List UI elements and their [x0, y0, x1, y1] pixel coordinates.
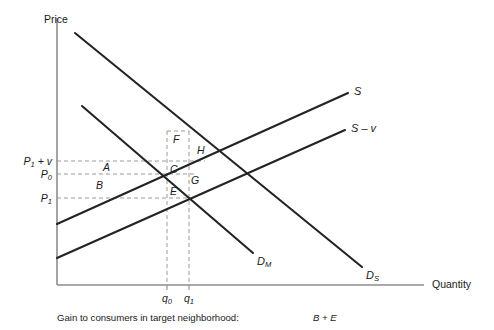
quantity-tick-q1: q1 [184, 293, 194, 304]
quantity-tick-q0-base: q [162, 292, 168, 304]
quantity-tick-q0-sub: 0 [168, 297, 172, 306]
curve-label-supply-minus-v: S – v [351, 123, 376, 134]
quantity-tick-q0: q0 [162, 293, 172, 304]
price-tick-p0: P0 [6, 169, 52, 180]
curve-label-demand-market-base: D [257, 255, 265, 267]
curve-label-demand-social-sub: S [374, 274, 379, 283]
curve-supply [57, 93, 348, 224]
supply-demand-figure: Price Quantity P1 + v P0 P1 q0 q1 S S – … [0, 0, 494, 330]
region-label-e: E [170, 186, 177, 197]
caption-value: B + E [313, 312, 337, 323]
quantity-tick-q1-sub: 1 [190, 297, 194, 306]
region-label-c: C [170, 164, 178, 175]
caption-label: Gain to consumers in target neighborhood… [57, 312, 239, 323]
caption-row: Gain to consumers in target neighborhood… [57, 312, 477, 323]
plot-canvas [0, 0, 494, 330]
curve-label-demand-market: DM [257, 256, 271, 267]
region-label-b: B [96, 180, 103, 191]
price-tick-p1v-suffix: + v [35, 155, 52, 167]
region-label-f: F [173, 134, 179, 145]
quantity-tick-q1-base: q [184, 292, 190, 304]
region-label-h: H [197, 145, 205, 156]
price-tick-p1v-sub: 1 [31, 160, 35, 169]
x-axis-title: Quantity [432, 279, 471, 290]
price-tick-p1: P1 [6, 193, 52, 204]
curve-label-demand-market-sub: M [265, 260, 271, 269]
y-axis-title: Price [44, 14, 68, 25]
price-tick-p1-sub: 1 [48, 197, 52, 206]
price-tick-p1v: P1 + v [6, 156, 52, 167]
region-label-g: G [191, 175, 199, 186]
curve-label-demand-social: DS [366, 270, 379, 281]
region-label-a: A [103, 162, 110, 173]
curve-label-demand-social-base: D [366, 269, 374, 281]
price-tick-p1-base: P [41, 192, 48, 204]
price-tick-p0-sub: 0 [48, 173, 52, 182]
curve-label-supply: S [354, 86, 361, 97]
price-tick-p1v-base: P [24, 155, 31, 167]
price-tick-p0-base: P [41, 168, 48, 180]
